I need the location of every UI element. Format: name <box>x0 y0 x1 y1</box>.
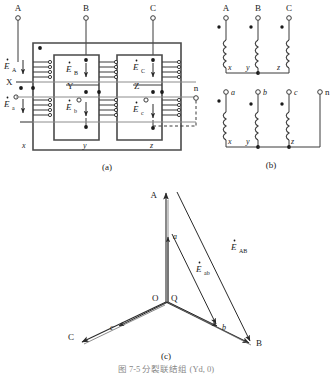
secondary-winding-a <box>33 98 52 116</box>
figure-caption: 图 7-5 分裂联结组 (Yd, 0) <box>118 364 214 374</box>
panel-a-caption: (a) <box>102 162 112 172</box>
b-terminal-label-c: c <box>294 88 298 97</box>
b-terminal-label-n: n <box>325 87 330 97</box>
phasor-Qc <box>119 302 168 326</box>
b-coil-C <box>286 40 289 68</box>
primary-winding-C <box>162 60 181 78</box>
phasor-label-Q: Q <box>171 293 178 303</box>
tap-node-c[interactable] <box>144 98 148 102</box>
emf-dot-Ec <box>136 102 138 104</box>
figure-svg: A B C E <box>0 0 333 374</box>
b-coil-A <box>223 40 226 68</box>
primary-winding-B <box>99 60 118 78</box>
b-coil-c <box>286 112 289 140</box>
polarity-dot-limb-1 <box>38 46 42 50</box>
b-label-x-top: x <box>227 63 232 72</box>
emf-label-EC-sub: C <box>141 68 145 74</box>
secondary-winding-c <box>162 98 181 116</box>
phasor-label-EAB-sub: AB <box>239 248 247 254</box>
emf-label-Ea-symbol: E <box>3 99 10 109</box>
panel-b: A x B y C z a <box>217 3 330 170</box>
emf-label-Eb-symbol: E <box>65 102 72 112</box>
limb-3-group: E C Z E c z <box>132 60 181 150</box>
phasor-label-A: A <box>151 190 158 200</box>
terminal-label-C: C <box>150 3 156 13</box>
panel-b-secondary: a x b y c z n <box>217 87 330 149</box>
b-polarity-dot-a <box>217 99 220 102</box>
figure-container: A B C E <box>0 0 333 374</box>
bottom-label-x: x <box>21 141 26 150</box>
phasor-OC-shadow <box>84 305 165 344</box>
polarity-dot-limb-2 <box>84 58 88 62</box>
polarity-dot-Z <box>151 90 155 94</box>
b-terminal-label-b: b <box>263 88 267 97</box>
polarity-dot-Z2 <box>160 90 164 94</box>
terminal-node-B[interactable] <box>84 16 89 21</box>
phasor-inner-star <box>119 237 217 326</box>
emf-dot-EC <box>136 60 138 62</box>
terminal-label-X: X <box>6 77 13 87</box>
b-coil-a <box>223 112 226 140</box>
phasor-label-Eab-symbol: E <box>195 264 202 274</box>
connection-buses <box>16 82 196 122</box>
bottom-label-y: y <box>82 141 87 150</box>
emf-label-EB-symbol: E <box>65 64 72 74</box>
phasor-dot-Eab <box>199 262 201 264</box>
b-terminal-node-a[interactable] <box>224 90 229 95</box>
terminal-node-n[interactable] <box>194 96 199 101</box>
b-label-z-top: z <box>276 63 281 72</box>
b-terminal-label-B: B <box>255 3 261 13</box>
b-terminal-label-a: a <box>231 88 235 97</box>
b-terminal-node-C[interactable] <box>287 16 292 21</box>
panel-b-primary: A x B y C z <box>217 3 292 75</box>
limb-1-group: E A X E a x <box>3 59 52 150</box>
b-terminal-node-b[interactable] <box>256 90 261 95</box>
primary-winding-A <box>33 60 52 78</box>
polarity-dot-X <box>19 86 23 90</box>
b-terminal-node-c[interactable] <box>287 90 292 95</box>
emf-label-Eb-sub: b <box>74 108 77 114</box>
limb-2-group: E B Y E b y <box>65 60 118 150</box>
b-label-y-top: y <box>245 63 250 72</box>
junction-y <box>84 125 88 129</box>
phasor-label-a: a <box>173 232 177 241</box>
phasor-label-c: c <box>110 323 114 332</box>
panel-c: A B C a b c O Q E AB E ab (c) <box>68 190 262 361</box>
phasor-OC <box>82 302 166 342</box>
b-terminal-label-A: A <box>223 3 230 13</box>
b-coil-b <box>255 112 258 140</box>
panel-a: A B C E <box>3 3 199 172</box>
polarity-dot-X2 <box>31 86 35 90</box>
b-coil-B <box>255 40 258 68</box>
emf-label-Ec-sub: c <box>141 110 144 116</box>
panel-c-caption: (c) <box>161 351 171 361</box>
phasor-label-O: O <box>152 293 159 303</box>
phasor-Eab <box>172 234 216 324</box>
terminal-label-B: B <box>83 3 89 13</box>
emf-dot-Ea <box>7 97 9 99</box>
phasor-label-Eab-sub: ab <box>204 270 210 276</box>
emf-label-EC-symbol: E <box>132 62 139 72</box>
emf-label-EB-sub: B <box>74 70 78 76</box>
terminal-label-A: A <box>15 3 22 13</box>
b-terminal-label-C: C <box>286 3 292 13</box>
phasor-dot-EAB <box>234 240 236 242</box>
secondary-winding-b <box>99 98 118 116</box>
phasor-OB-shadow <box>169 303 251 345</box>
b-tail-C <box>258 68 289 73</box>
panel-b-caption: (b) <box>266 160 277 170</box>
b-polarity-dot-B <box>249 25 252 28</box>
polarity-dot-Y <box>84 90 88 94</box>
b-terminal-node-A[interactable] <box>224 16 229 21</box>
b-polarity-dot-A <box>217 25 220 28</box>
b-label-z-bottom: z <box>290 137 295 146</box>
phasor-label-B: B <box>256 338 262 348</box>
terminal-node-A[interactable] <box>16 16 21 21</box>
emf-label-EA-sub: A <box>12 67 17 73</box>
junction-z <box>151 126 155 130</box>
tap-node-b[interactable] <box>77 98 81 102</box>
b-terminal-node-n[interactable] <box>318 90 323 95</box>
terminal-node-C[interactable] <box>151 16 156 21</box>
b-terminal-node-B[interactable] <box>256 16 261 21</box>
emf-label-Ea-sub: a <box>12 105 15 111</box>
